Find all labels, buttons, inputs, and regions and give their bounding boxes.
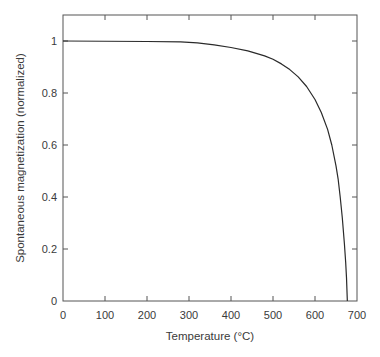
x-tick-label: 300 [180,309,198,321]
y-tick-labels: 00.20.40.60.81 [42,35,57,307]
x-tick-label: 700 [348,309,366,321]
y-tick-label: 0.6 [42,139,57,151]
y-axis-label: Spontaneous magnetization (normalized) [14,53,26,263]
magnetization-curve [63,41,347,301]
y-tick-label: 0.2 [42,243,57,255]
x-tick-label: 500 [264,309,282,321]
plot-frame [63,15,357,301]
x-tick-label: 200 [138,309,156,321]
y-tick-label: 1 [51,35,57,47]
x-tick-label: 0 [60,309,66,321]
axis-ticks [63,15,357,301]
x-tick-label: 600 [306,309,324,321]
x-tick-label: 100 [96,309,114,321]
y-tick-label: 0.8 [42,87,57,99]
y-tick-label: 0.4 [42,191,57,203]
plot-border [63,15,357,301]
x-tick-label: 400 [222,309,240,321]
chart: 0100200300400500600700 00.20.40.60.81 Te… [0,0,380,357]
x-axis-label: Temperature (°C) [166,330,254,342]
y-tick-label: 0 [51,295,57,307]
x-tick-labels: 0100200300400500600700 [60,309,366,321]
